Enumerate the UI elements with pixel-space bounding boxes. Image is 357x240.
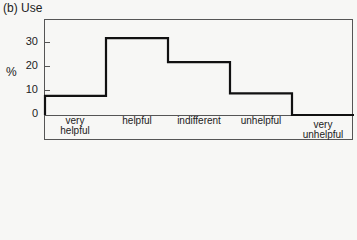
x-label-helpful: helpful bbox=[106, 116, 168, 126]
x-label-very-helpful: very helpful bbox=[44, 116, 106, 136]
x-label-very-unhelpful: very unhelpful bbox=[292, 120, 354, 140]
x-label-unhelpful: unhelpful bbox=[230, 116, 292, 126]
x-label-indifferent: indifferent bbox=[168, 116, 230, 126]
